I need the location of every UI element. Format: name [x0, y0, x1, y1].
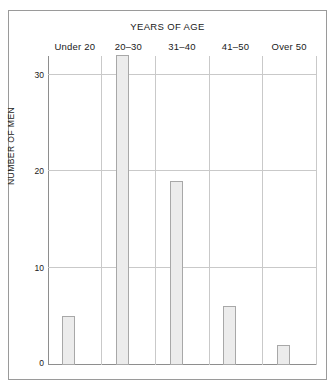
category-separator-5 [316, 56, 317, 365]
category-label-over-50: Over 50 [262, 41, 316, 55]
category-separator-3 [209, 56, 210, 365]
category-separator-1 [101, 56, 102, 365]
bar-41-50 [223, 306, 236, 365]
y-tick-label-10: 10 [20, 263, 44, 273]
bar-over-50 [277, 345, 290, 365]
gridline-30 [48, 74, 316, 75]
category-separator-4 [262, 56, 263, 365]
category-label-under-20: Under 20 [48, 41, 102, 55]
bar-31-40 [170, 181, 183, 365]
category-separator-2 [155, 56, 156, 365]
y-tick-label-30: 30 [20, 70, 44, 80]
y-axis-line [48, 56, 49, 365]
chart-frame [8, 10, 327, 380]
category-label-20-30: 20–30 [102, 41, 156, 55]
bar-under-20 [62, 316, 75, 365]
y-tick-label-0: 0 [20, 358, 44, 368]
chart-title: YEARS OF AGE [8, 21, 327, 32]
category-label-31-40: 31–40 [155, 41, 209, 55]
gridline-20 [48, 170, 316, 171]
chart-figure: YEARS OF AGE Under 20 20–30 31–40 41–50 … [0, 0, 335, 390]
category-label-row: Under 20 20–30 31–40 41–50 Over 50 [48, 41, 316, 55]
category-label-41-50: 41–50 [209, 41, 263, 55]
y-axis-title: NUMBER OF MEN [6, 85, 16, 185]
bar-20-30 [116, 55, 129, 365]
y-tick-label-20: 20 [20, 166, 44, 176]
